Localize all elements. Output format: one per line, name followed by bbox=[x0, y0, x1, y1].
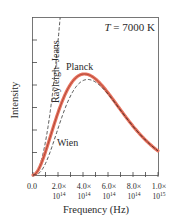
blackbody-chart: T = 7000 K Rayleigh–Jeans Planck Wien 0.… bbox=[0, 0, 177, 224]
temperature-annotation: T = 7000 K bbox=[104, 21, 155, 33]
x-tick-label: 4.0× bbox=[77, 182, 92, 191]
rayleigh-jeans-label: Rayleigh–Jeans bbox=[50, 40, 61, 103]
planck-label: Planck bbox=[66, 61, 93, 72]
x-tick-label: 6.0× bbox=[102, 182, 117, 191]
x-tick-label: 8.0× bbox=[127, 182, 142, 191]
x-tick-label-exponent: 1014 bbox=[78, 191, 91, 201]
x-tick-label: 0.0 bbox=[27, 182, 37, 191]
y-axis-label: Intensity bbox=[9, 81, 20, 118]
x-axis-ticks bbox=[33, 172, 158, 177]
x-tick-labels: 0.02.0×10144.0×10146.0×10148.0×10141.0×1… bbox=[27, 182, 166, 201]
x-tick-label: 2.0× bbox=[52, 182, 67, 191]
wien-label: Wien bbox=[57, 137, 78, 148]
x-tick-label-exponent: 1015 bbox=[153, 191, 166, 201]
x-tick-label: 1.0× bbox=[152, 182, 167, 191]
x-axis-label: Frequency (Hz) bbox=[63, 204, 130, 216]
x-tick-label-exponent: 1014 bbox=[103, 191, 116, 201]
x-tick-label-exponent: 1014 bbox=[128, 191, 141, 201]
x-tick-label-exponent: 1014 bbox=[53, 191, 66, 201]
